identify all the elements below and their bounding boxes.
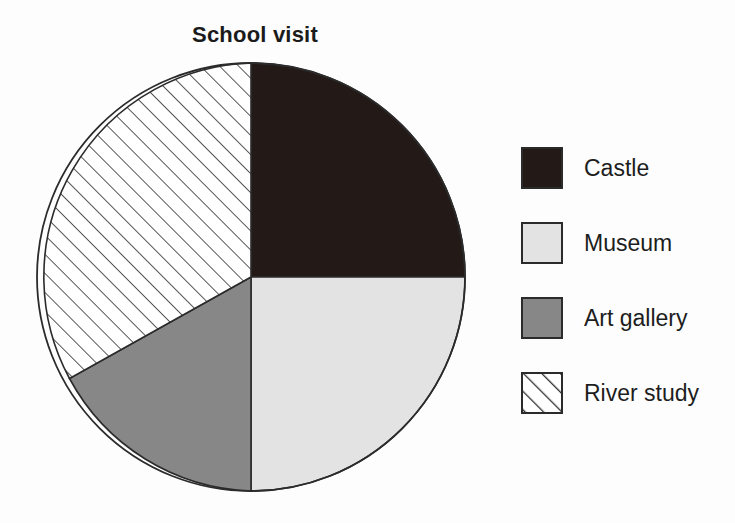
hatched-swatch-icon <box>521 372 563 414</box>
legend-item-art-gallery: Art gallery <box>521 294 735 342</box>
solid-medium-swatch-icon <box>521 297 563 339</box>
pie-slice-museum <box>251 277 465 491</box>
pie-chart <box>0 0 510 523</box>
legend-label: River study <box>584 382 699 405</box>
pie-slice-castle <box>251 63 465 277</box>
solid-dark-swatch-icon <box>521 147 563 189</box>
legend-label: Art gallery <box>584 307 688 330</box>
legend-item-castle: Castle <box>521 144 735 192</box>
legend-item-river-study: River study <box>521 369 735 417</box>
legend-label: Castle <box>584 157 649 180</box>
chart-page: School visit Castle Museum <box>0 0 735 523</box>
legend: Castle Museum Art gallery <box>521 144 735 444</box>
legend-label: Museum <box>584 232 672 255</box>
solid-light-swatch-icon <box>521 222 563 264</box>
legend-item-museum: Museum <box>521 219 735 267</box>
